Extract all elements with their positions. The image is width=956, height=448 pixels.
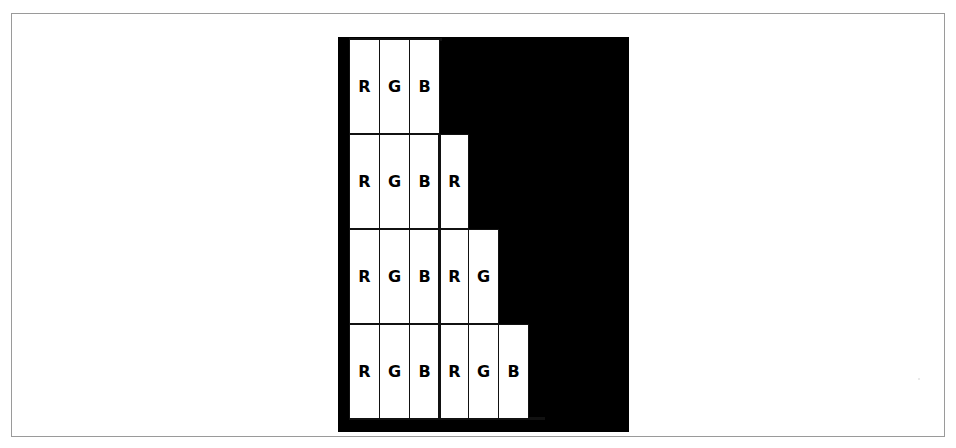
table-row: R G B R G B	[349, 324, 529, 419]
subpixel-cell: G	[468, 229, 499, 324]
subpixel-cell: B	[409, 324, 440, 419]
figure-frame: R G B R G B R R G B R G R G	[11, 13, 945, 437]
subpixel-cell: R	[349, 229, 380, 324]
subpixel-cell: G	[379, 324, 410, 419]
subpixel-cell: R	[438, 324, 469, 419]
subpixel-cell: B	[409, 39, 440, 134]
subpixel-cell: B	[498, 324, 529, 419]
table-row: R G B	[349, 39, 440, 134]
figure-page: R G B R G B R R G B R G R G	[0, 0, 956, 448]
rgb-staircase-diagram: R G B R G B R R G B R G R G	[338, 37, 629, 432]
subpixel-cell: G	[379, 39, 410, 134]
subpixel-cell: R	[349, 324, 380, 419]
subpixel-cell: G	[468, 324, 499, 419]
scan-speck	[918, 378, 920, 380]
subpixel-cell: R	[349, 39, 380, 134]
subpixel-cell: G	[379, 229, 410, 324]
subpixel-cell: B	[409, 134, 440, 229]
subpixel-cell: G	[379, 134, 410, 229]
table-row: R G B R	[349, 134, 469, 229]
table-row: R G B R G	[349, 229, 499, 324]
subpixel-cell: R	[349, 134, 380, 229]
subpixel-cell: R	[438, 134, 469, 229]
subpixel-cell: R	[438, 229, 469, 324]
subpixel-cell: B	[409, 229, 440, 324]
